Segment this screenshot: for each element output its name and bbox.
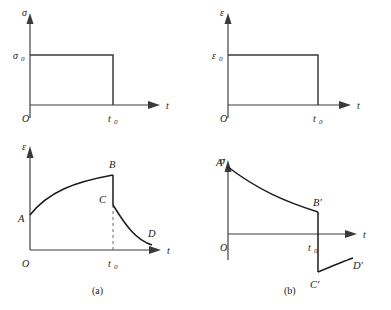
x-tick-sublabel: 0 <box>114 118 118 126</box>
reverse-recovery-curve <box>318 258 353 272</box>
point-label-D-prime: D′ <box>352 260 364 271</box>
origin-label: O <box>22 113 29 124</box>
y-level-sublabel: 0 <box>21 55 25 63</box>
y-axis-arrow <box>225 13 232 24</box>
y-level-label: σ <box>13 50 19 61</box>
point-label-B: B <box>109 159 116 170</box>
y-level-sublabel: 0 <box>219 55 223 63</box>
point-label-C: C <box>99 194 107 205</box>
relaxation-curve <box>228 167 318 212</box>
point-label-B-prime: B′ <box>313 197 322 208</box>
axes-creep <box>27 146 162 254</box>
y-axis-arrow <box>225 160 232 172</box>
origin-label: O <box>22 258 29 269</box>
chart-creep: A B C D ε t O t 0 (a) <box>0 130 196 310</box>
caption-a: (a) <box>92 285 103 297</box>
x-tick-label: t <box>308 242 311 253</box>
x-tick-sublabel: 0 <box>314 247 318 255</box>
x-axis-label: t <box>167 245 170 256</box>
chart-relaxation: A′ B′ C′ D′ σ t O t 0 (b) <box>196 130 391 310</box>
x-axis-arrow <box>149 246 161 254</box>
x-axis-label: t <box>363 229 366 240</box>
figure-root: σ t O σ 0 t 0 ε t O ε 0 t 0 <box>0 0 391 310</box>
x-tick-sublabel: 0 <box>114 263 118 271</box>
origin-label: O <box>220 242 227 253</box>
y-axis-label: ε <box>22 141 26 152</box>
x-tick-label: t <box>108 113 111 124</box>
point-label-D: D <box>147 228 156 239</box>
x-tick-label: t <box>313 113 316 124</box>
x-axis-arrow <box>148 101 160 109</box>
y-axis-arrow <box>27 13 34 24</box>
y-level-label: ε <box>212 50 216 61</box>
y-axis-arrow <box>27 146 34 158</box>
x-axis-arrow <box>339 101 351 109</box>
axes-relaxation <box>225 160 358 260</box>
axes-strain-input <box>225 13 352 118</box>
x-axis-label: t <box>357 100 360 111</box>
x-axis-arrow <box>345 230 357 238</box>
y-axis-label: ε <box>220 7 224 18</box>
x-tick-label: t <box>108 258 111 269</box>
y-axis-label: σ <box>220 155 226 166</box>
strain-step-curve <box>228 55 318 105</box>
x-axis-label: t <box>166 100 169 111</box>
chart-stress-input: σ t O σ 0 t 0 <box>0 0 196 130</box>
point-label-A: A <box>17 213 25 224</box>
caption-b: (b) <box>284 285 296 297</box>
stress-step-curve <box>30 55 113 105</box>
point-label-C-prime: C′ <box>310 279 320 290</box>
chart-strain-input: ε t O ε 0 t 0 <box>196 0 391 130</box>
origin-label: O <box>220 113 227 124</box>
creep-recovery-curve <box>113 205 152 245</box>
y-axis-label: σ <box>22 7 28 18</box>
axes-stress-input <box>27 13 161 118</box>
x-tick-sublabel: 0 <box>319 118 323 126</box>
